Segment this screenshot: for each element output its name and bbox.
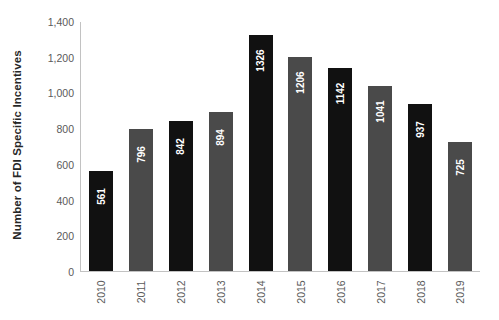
- y-axis-title: Number of FDI Specific Incentives: [4, 0, 30, 290]
- y-axis-tick-label: 600: [56, 159, 74, 171]
- y-axis-tick-label: 1,400: [48, 16, 74, 28]
- bar-chart: Number of FDI Specific Incentives 020040…: [0, 0, 499, 320]
- x-axis-tick-label: 2012: [175, 280, 187, 303]
- bar-slot: 1206: [281, 22, 321, 271]
- bar-value-label: 1142: [335, 83, 346, 105]
- bar[interactable]: 561: [89, 171, 113, 271]
- x-axis-tick-label: 2016: [334, 280, 346, 303]
- y-axis-tick-labels: 02004006008001,0001,2001,400: [28, 0, 78, 320]
- plot-area: 5617968428941326120611421041937725: [80, 22, 480, 272]
- bar-slot: 1041: [360, 22, 400, 271]
- bar[interactable]: 842: [169, 121, 193, 271]
- bar-slot: 561: [81, 22, 121, 271]
- bar-slot: 725: [440, 22, 480, 271]
- bar[interactable]: 937: [408, 104, 432, 271]
- y-axis-title-text: Number of FDI Specific Incentives: [11, 50, 23, 239]
- x-axis-tick-label: 2013: [215, 280, 227, 303]
- bar[interactable]: 894: [209, 112, 233, 271]
- bar-value-label: 937: [415, 122, 426, 139]
- bar-slot: 842: [161, 22, 201, 271]
- x-axis-tick: 2011: [121, 274, 161, 320]
- bar-value-label: 725: [455, 159, 466, 176]
- x-axis-tick: 2013: [201, 274, 241, 320]
- y-axis-tick-label: 0: [68, 266, 74, 278]
- x-axis-tick-label: 2014: [255, 280, 267, 303]
- x-axis-tick: 2019: [440, 274, 480, 320]
- bar-value-label: 1041: [375, 100, 386, 122]
- bar-series: 5617968428941326120611421041937725: [81, 22, 480, 271]
- bar[interactable]: 796: [129, 129, 153, 271]
- bar-value-label: 561: [95, 188, 106, 205]
- bar-slot: 937: [400, 22, 440, 271]
- y-axis-tick-label: 1,200: [48, 52, 74, 64]
- bar-value-label: 796: [135, 147, 146, 164]
- x-axis-tick-label: 2010: [95, 280, 107, 303]
- x-axis-tick: 2010: [81, 274, 121, 320]
- x-axis-tick: 2015: [281, 274, 321, 320]
- bar-slot: 796: [121, 22, 161, 271]
- x-axis-tick-label: 2018: [414, 280, 426, 303]
- y-axis-tick-label: 400: [56, 195, 74, 207]
- x-axis-tick: 2018: [400, 274, 440, 320]
- x-axis-tick: 2014: [241, 274, 281, 320]
- bar-value-label: 1326: [255, 50, 266, 72]
- x-axis-line: [80, 271, 480, 272]
- bar-value-label: 894: [215, 129, 226, 146]
- x-axis-tick: 2017: [360, 274, 400, 320]
- x-axis-tick-labels: 2010201120122013201420152016201720182019: [81, 274, 480, 320]
- bar[interactable]: 1041: [368, 86, 392, 271]
- bar[interactable]: 725: [448, 142, 472, 271]
- y-axis-tick-label: 1,000: [48, 87, 74, 99]
- bar-value-label: 842: [175, 138, 186, 155]
- x-axis-tick: 2012: [161, 274, 201, 320]
- y-axis-tick-label: 800: [56, 123, 74, 135]
- bar[interactable]: 1142: [328, 68, 352, 271]
- bar-slot: 894: [201, 22, 241, 271]
- x-axis-tick-label: 2015: [294, 280, 306, 303]
- bar[interactable]: 1326: [249, 35, 273, 271]
- bar-value-label: 1206: [295, 71, 306, 93]
- x-axis-tick: 2016: [320, 274, 360, 320]
- x-axis-tick-label: 2017: [374, 280, 386, 303]
- bar-slot: 1142: [320, 22, 360, 271]
- bar[interactable]: 1206: [288, 57, 312, 271]
- x-axis-tick-label: 2019: [454, 280, 466, 303]
- x-axis-tick-label: 2011: [135, 281, 147, 304]
- y-axis-tick-label: 200: [56, 230, 74, 242]
- bar-slot: 1326: [241, 22, 281, 271]
